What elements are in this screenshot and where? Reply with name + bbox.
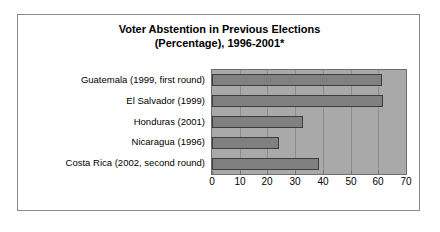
tick-mark-0 [212, 171, 213, 175]
category-label: Guatemala (1999, first round) [15, 74, 205, 85]
category-label: Costa Rica (2002, second round) [15, 157, 205, 168]
tick-label-40: 40 [312, 176, 334, 188]
x-axis-tick-marks [211, 171, 407, 175]
category-axis-labels: Guatemala (1999, first round)El Salvador… [18, 69, 209, 173]
chart-title: Voter Abstention in Previous Elections (… [18, 22, 421, 50]
category-label: Nicaragua (1996) [15, 136, 205, 147]
tick-label-0: 0 [201, 176, 223, 188]
tick-mark-30 [295, 171, 296, 175]
tick-label-70: 70 [395, 176, 417, 188]
x-axis-tick-labels: 010203040506070 [211, 176, 407, 190]
tick-label-10: 10 [229, 176, 251, 188]
plot-area [211, 69, 407, 175]
tick-mark-50 [351, 171, 352, 175]
bar [212, 116, 303, 128]
tick-label-50: 50 [340, 176, 362, 188]
tick-mark-40 [323, 171, 324, 175]
chart-title-line-1: Voter Abstention in Previous Elections [119, 23, 321, 35]
bar [212, 158, 319, 170]
tick-mark-60 [378, 171, 379, 175]
tick-label-20: 20 [256, 176, 278, 188]
bar [212, 137, 279, 149]
category-label: Honduras (2001) [15, 116, 205, 127]
bars-series [212, 70, 406, 174]
category-label: El Salvador (1999) [15, 95, 205, 106]
tick-mark-20 [267, 171, 268, 175]
tick-mark-10 [240, 171, 241, 175]
bar [212, 95, 383, 107]
tick-mark-70 [406, 171, 407, 175]
chart-frame: Voter Abstention in Previous Elections (… [17, 14, 420, 211]
chart-title-line-2: (Percentage), 1996-2001* [18, 36, 421, 50]
bar [212, 74, 382, 86]
tick-label-60: 60 [367, 176, 389, 188]
chart-screenshot: Voter Abstention in Previous Elections (… [0, 0, 440, 232]
tick-label-30: 30 [284, 176, 306, 188]
